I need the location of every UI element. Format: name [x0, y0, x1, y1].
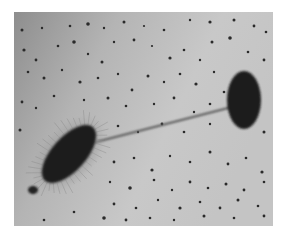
- speck: [263, 181, 266, 184]
- speck: [72, 40, 76, 44]
- speck: [125, 219, 128, 222]
- speck: [153, 179, 156, 182]
- speck: [245, 157, 248, 160]
- speck: [219, 207, 222, 210]
- speck: [97, 77, 100, 80]
- speck: [183, 131, 186, 134]
- speck: [209, 123, 211, 125]
- speck: [21, 29, 24, 32]
- speck: [135, 207, 138, 210]
- speck: [199, 59, 201, 61]
- speck: [113, 203, 116, 206]
- speck: [147, 75, 150, 78]
- speck: [199, 201, 202, 204]
- speck: [123, 21, 126, 24]
- speck: [209, 151, 212, 154]
- speck: [69, 25, 72, 28]
- micrograph-photo: [14, 12, 273, 226]
- speck: [225, 183, 228, 186]
- speck: [207, 187, 210, 190]
- speck: [183, 49, 186, 52]
- speck: [57, 45, 60, 48]
- speck: [194, 82, 197, 85]
- speck: [257, 205, 260, 208]
- speck: [203, 215, 206, 218]
- speck: [117, 125, 120, 128]
- speck: [117, 73, 119, 75]
- speck: [168, 56, 171, 59]
- speck: [21, 101, 24, 104]
- speck: [179, 73, 182, 76]
- speck: [102, 216, 106, 220]
- speck: [213, 71, 215, 73]
- speck: [153, 103, 155, 105]
- speck: [157, 199, 159, 201]
- speck: [125, 105, 128, 108]
- speck: [113, 41, 115, 43]
- speck: [209, 103, 212, 106]
- speck: [27, 71, 30, 74]
- speck: [133, 39, 136, 42]
- speck: [189, 19, 191, 21]
- speck: [19, 129, 22, 132]
- speck: [263, 59, 266, 62]
- speck: [263, 131, 266, 134]
- speck: [22, 48, 25, 51]
- speck: [223, 91, 226, 94]
- speck: [263, 215, 266, 218]
- speck: [247, 51, 250, 54]
- speck: [61, 69, 63, 71]
- speck: [228, 36, 232, 40]
- speck: [151, 45, 153, 47]
- speck: [227, 163, 230, 166]
- speck: [193, 111, 195, 113]
- speck: [107, 97, 110, 100]
- speck: [208, 20, 211, 23]
- speck: [131, 89, 134, 92]
- speck: [163, 29, 166, 32]
- speck: [171, 189, 173, 191]
- speck: [133, 157, 136, 160]
- speck: [233, 19, 236, 22]
- speck: [169, 155, 171, 157]
- speck: [73, 211, 76, 214]
- speck: [78, 80, 81, 83]
- small-round-body: [28, 186, 38, 194]
- speck: [101, 61, 104, 64]
- speck: [143, 25, 145, 27]
- speck: [233, 217, 236, 220]
- speck: [189, 181, 192, 184]
- speck: [103, 27, 105, 29]
- speck: [53, 95, 56, 98]
- speck: [178, 206, 181, 209]
- speck: [35, 107, 37, 109]
- speck: [173, 219, 175, 221]
- speck: [237, 199, 240, 202]
- speck: [35, 59, 38, 62]
- speck: [83, 99, 85, 101]
- speck: [43, 77, 46, 80]
- speck: [43, 219, 46, 222]
- speck: [86, 22, 90, 26]
- speck: [150, 168, 153, 171]
- micrograph-canvas: [14, 12, 273, 226]
- speck: [189, 161, 192, 164]
- speck: [113, 161, 116, 164]
- recipient-cell: [227, 71, 261, 129]
- speck: [260, 170, 263, 173]
- speck: [41, 27, 43, 29]
- speck: [173, 97, 176, 100]
- speck: [265, 31, 268, 34]
- speck: [253, 25, 256, 28]
- speck: [211, 41, 214, 44]
- speck: [128, 186, 132, 190]
- speck: [149, 217, 152, 220]
- speck: [109, 181, 111, 183]
- speck: [163, 81, 165, 83]
- speck: [87, 53, 89, 55]
- speck: [243, 189, 246, 192]
